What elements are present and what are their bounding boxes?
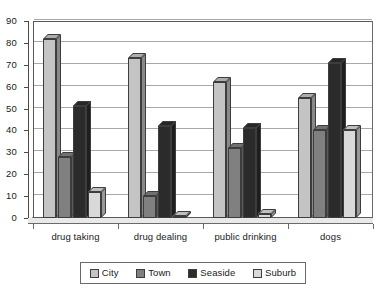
legend-label-seaside: Seaside bbox=[200, 268, 235, 278]
y-tick-label-50: 50 bbox=[6, 104, 17, 113]
x-label-drug-taking: drug taking bbox=[33, 231, 118, 242]
y-tick-mark-80 bbox=[24, 43, 28, 44]
y-axis-line bbox=[28, 21, 29, 218]
y-tick-label-10: 10 bbox=[6, 191, 17, 200]
legend-swatch-suburb bbox=[253, 269, 262, 278]
bar-face bbox=[73, 106, 86, 218]
bar-city-drug-taking bbox=[43, 39, 56, 218]
legend-item-town[interactable]: Town bbox=[136, 268, 171, 278]
legend-swatch-city bbox=[90, 269, 99, 278]
y-tick-mark-0 bbox=[24, 218, 28, 219]
bar-face bbox=[213, 82, 226, 218]
y-tick-mark-70 bbox=[24, 65, 28, 66]
bar-face bbox=[343, 130, 356, 218]
x-tick-0 bbox=[33, 224, 34, 229]
y-tick-mark-20 bbox=[24, 174, 28, 175]
bar-side bbox=[356, 125, 361, 218]
y-tick-mark-60 bbox=[24, 87, 28, 88]
y-tick-mark-10 bbox=[24, 196, 28, 197]
x-label-drug-dealing: drug dealing bbox=[118, 231, 203, 242]
bar-face bbox=[128, 58, 141, 218]
x-label-dogs: dogs bbox=[288, 231, 373, 242]
x-label-public-drinking: public drinking bbox=[203, 231, 288, 242]
bar-suburb-dogs bbox=[343, 130, 356, 218]
y-tick-label-0: 0 bbox=[12, 213, 17, 222]
bar-face bbox=[88, 192, 101, 218]
bar-suburb-drug-dealing bbox=[173, 216, 186, 218]
bar-face bbox=[58, 157, 71, 218]
bar-seaside-public-drinking bbox=[243, 128, 256, 218]
legend-swatch-seaside bbox=[188, 269, 197, 278]
bar-town-public-drinking bbox=[228, 148, 241, 218]
bar-face bbox=[43, 39, 56, 218]
bar-side bbox=[171, 121, 176, 218]
x-tick-1 bbox=[118, 224, 119, 229]
bar-town-drug-dealing bbox=[143, 196, 156, 218]
bar-suburb-drug-taking bbox=[88, 192, 101, 218]
bar-town-drug-taking bbox=[58, 157, 71, 218]
bar-seaside-drug-dealing bbox=[158, 126, 171, 218]
y-tick-label-90: 90 bbox=[6, 16, 17, 25]
bar-face bbox=[158, 126, 171, 218]
bars-layer bbox=[33, 21, 373, 218]
y-tick-mark-30 bbox=[24, 152, 28, 153]
bar-face bbox=[143, 196, 156, 218]
y-tick-label-60: 60 bbox=[6, 82, 17, 91]
y-axis: 0102030405060708090 bbox=[0, 0, 28, 294]
legend-label-city: City bbox=[102, 268, 119, 278]
y-tick-label-40: 40 bbox=[6, 125, 17, 134]
bar-city-public-drinking bbox=[213, 82, 226, 218]
bar-face bbox=[298, 98, 311, 218]
x-tick-2 bbox=[203, 224, 204, 229]
y-tick-label-30: 30 bbox=[6, 147, 17, 156]
y-tick-label-80: 80 bbox=[6, 38, 17, 47]
bar-chart: 0102030405060708090 drug takingdrug deal… bbox=[0, 0, 386, 294]
legend-label-town: Town bbox=[148, 268, 171, 278]
x-axis-labels: drug takingdrug dealingpublic drinkingdo… bbox=[33, 224, 373, 260]
bar-face bbox=[328, 63, 341, 218]
legend-item-suburb[interactable]: Suburb bbox=[253, 268, 296, 278]
bar-side bbox=[256, 123, 261, 218]
chart-legend: CityTownSeasideSuburb bbox=[80, 262, 306, 284]
y-tick-mark-50 bbox=[24, 109, 28, 110]
bar-city-dogs bbox=[298, 98, 311, 218]
x-tick-3 bbox=[288, 224, 289, 229]
gridline-90 bbox=[34, 19, 372, 20]
bar-face bbox=[228, 148, 241, 218]
legend-item-seaside[interactable]: Seaside bbox=[188, 268, 235, 278]
bar-city-drug-dealing bbox=[128, 58, 141, 218]
bar-face bbox=[313, 130, 326, 218]
legend-item-city[interactable]: City bbox=[90, 268, 119, 278]
y-tick-label-20: 20 bbox=[6, 169, 17, 178]
x-tick-end bbox=[373, 224, 374, 229]
bar-face bbox=[243, 128, 256, 218]
legend-swatch-town bbox=[136, 269, 145, 278]
y-tick-mark-40 bbox=[24, 130, 28, 131]
bar-suburb-public-drinking bbox=[258, 214, 271, 218]
bar-seaside-drug-taking bbox=[73, 106, 86, 218]
bar-seaside-dogs bbox=[328, 63, 341, 218]
y-tick-label-70: 70 bbox=[6, 60, 17, 69]
bar-face bbox=[173, 216, 186, 218]
y-tick-mark-90 bbox=[24, 21, 28, 22]
bar-town-dogs bbox=[313, 130, 326, 218]
legend-label-suburb: Suburb bbox=[265, 268, 296, 278]
bar-face bbox=[258, 214, 271, 218]
